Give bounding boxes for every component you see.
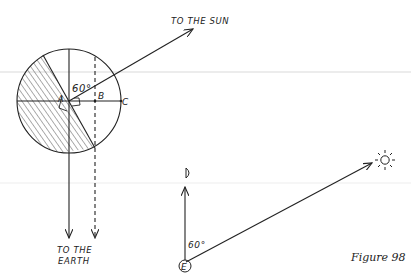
sun-icon xyxy=(375,150,395,170)
point-a-label: A xyxy=(57,95,64,104)
point-b-label: B xyxy=(98,91,105,101)
moon-crescent-icon xyxy=(186,168,189,178)
point-c-label: C xyxy=(122,97,129,107)
angle-label-60: 60° xyxy=(72,83,92,94)
to-the-earth-label-line2: EARTH xyxy=(58,256,90,266)
to-the-earth-label-line1: TO THE xyxy=(57,245,92,255)
earth-label: E xyxy=(181,262,187,272)
to-the-sun-label: TO THE SUN xyxy=(171,16,229,26)
right-angle-mark-right xyxy=(72,98,80,106)
sky-angle-label-60: 60° xyxy=(188,240,206,250)
figure-98-diagram: 60° A B C TO THE SUN TO THE EARTH E 60° xyxy=(0,0,411,274)
moon-phase-diagram: 60° A B C TO THE SUN TO THE EARTH xyxy=(0,16,229,266)
sun-direction-arrow-sky xyxy=(186,163,372,262)
figure-caption: Figure 98 xyxy=(351,251,406,264)
moon-shadow-hatch xyxy=(0,40,95,160)
